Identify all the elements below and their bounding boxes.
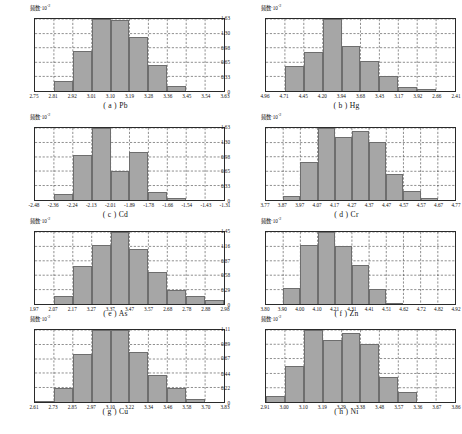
y-tick-label: 0.87 xyxy=(200,258,230,264)
bar xyxy=(398,392,417,402)
plot-area xyxy=(265,18,456,92)
y-tick-label: 0.29 xyxy=(200,287,230,293)
chart-panel-pb: 频数·10-200.280.550.831.101.382.752.812.92… xyxy=(0,0,231,109)
y-axis-ticks: 00.260.520.771.031.29 xyxy=(0,329,34,403)
y-tick-label: 0 xyxy=(200,198,230,204)
x-tick-label: 3.94 xyxy=(337,93,346,99)
bar-series xyxy=(35,330,224,402)
y-tick-label: 0.65 xyxy=(200,168,230,174)
bar xyxy=(73,354,92,402)
y-axis-unit-label: 频数·10-2 xyxy=(261,112,281,120)
plot-area xyxy=(265,329,456,403)
bar-series xyxy=(35,19,224,91)
bar xyxy=(54,296,73,304)
bar-series xyxy=(266,19,455,91)
x-tick-label: 3.45 xyxy=(182,93,191,99)
bar xyxy=(352,265,369,304)
bar xyxy=(167,290,186,304)
bar xyxy=(148,65,167,91)
bar xyxy=(318,128,335,200)
y-axis-ticks: 00.220.440.670.891.11 xyxy=(231,329,265,403)
axes-frame xyxy=(34,18,225,92)
bar xyxy=(111,330,130,402)
bar xyxy=(300,162,317,200)
x-tick-label: -2.13 xyxy=(86,202,97,208)
y-tick-label: 0.65 xyxy=(200,59,230,65)
axes-frame xyxy=(265,329,456,403)
x-tick-label: 3.43 xyxy=(375,93,384,99)
bar xyxy=(148,192,167,200)
x-tick-label: -1.66 xyxy=(162,202,173,208)
chart-panel-ni: 频数·10-200.220.440.670.891.112.913.003.10… xyxy=(231,311,462,424)
y-tick-label: 1.63 xyxy=(200,15,230,21)
axes-frame xyxy=(265,18,456,92)
x-tick-label: 3.19 xyxy=(125,93,134,99)
y-axis-unit-label: 频数·10-2 xyxy=(30,314,50,322)
bar xyxy=(323,19,342,91)
bar xyxy=(92,19,111,91)
x-tick-label: 4.45 xyxy=(299,93,308,99)
bar-series xyxy=(35,232,224,304)
y-axis-ticks: 00.280.550.831.101.38 xyxy=(0,18,34,92)
bar xyxy=(266,396,285,402)
bar xyxy=(92,245,111,304)
histogram-figure: 频数·10-200.280.550.831.101.382.752.812.92… xyxy=(0,0,462,434)
x-tick-label: 3.92 xyxy=(413,93,422,99)
axes-frame xyxy=(265,231,456,305)
y-tick-label: 0.98 xyxy=(200,45,230,51)
x-tick-label: 4.96 xyxy=(260,93,269,99)
y-axis-unit-label: 频数·10-2 xyxy=(261,216,281,224)
y-tick-label: 0 xyxy=(200,89,230,95)
y-tick-label: 0.44 xyxy=(200,371,230,377)
bar xyxy=(342,46,361,91)
y-axis-unit-label: 频数·10-2 xyxy=(30,112,50,120)
x-tick-label: -2.24 xyxy=(67,202,78,208)
bar xyxy=(335,137,352,200)
x-tick-label: 2.75 xyxy=(29,93,38,99)
x-tick-label: 4.57 xyxy=(417,202,426,208)
plot-area xyxy=(265,127,456,201)
bar xyxy=(167,198,186,200)
x-tick-label: -2.36 xyxy=(48,202,59,208)
y-tick-label: 0.98 xyxy=(200,154,230,160)
bar xyxy=(360,344,379,402)
bar xyxy=(54,81,73,91)
bar xyxy=(92,330,111,402)
x-tick-label: 3.97 xyxy=(295,202,304,208)
x-tick-label: 4.27 xyxy=(347,202,356,208)
axes-frame xyxy=(34,127,225,201)
bar xyxy=(304,52,323,91)
bar xyxy=(111,232,130,304)
axes-frame xyxy=(34,329,225,403)
y-axis-ticks: 00.260.520.781.041.30 xyxy=(0,231,34,305)
chart-panel-as: 频数·10-200.260.520.781.041.301.972.072.17… xyxy=(0,213,231,311)
bar xyxy=(335,246,352,304)
y-axis-ticks: 00.290.580.871.161.45 xyxy=(231,231,265,305)
y-axis-ticks: 00.360.721.071.431.79 xyxy=(0,127,34,201)
x-tick-label: 4.47 xyxy=(382,202,391,208)
bar xyxy=(54,194,73,200)
x-tick-label: 3.10 xyxy=(106,93,115,99)
y-tick-label: 0.33 xyxy=(200,74,230,80)
x-tick-label: 4.71 xyxy=(280,93,289,99)
bar-series xyxy=(266,232,455,304)
axes-frame xyxy=(265,127,456,201)
x-tick-label: 2.81 xyxy=(49,93,58,99)
x-tick-label: 4.17 xyxy=(330,202,339,208)
bar xyxy=(167,388,186,403)
bar xyxy=(111,171,130,200)
y-axis-ticks: 00.330.650.981.301.63 xyxy=(231,18,265,92)
bar xyxy=(352,131,369,200)
x-tick-label: 3.68 xyxy=(356,93,365,99)
y-axis-ticks: 00.330.650.981.301.63 xyxy=(231,127,265,201)
plot-area xyxy=(34,127,225,201)
plot-area xyxy=(34,329,225,403)
panel-caption: ( h ) Ni xyxy=(231,407,462,416)
chart-panel-cu: 频数·10-200.260.520.771.031.292.612.732.85… xyxy=(0,311,231,424)
x-tick-label: 4.37 xyxy=(365,202,374,208)
x-tick-label: -1.89 xyxy=(124,202,135,208)
x-tick-label: -1.54 xyxy=(181,202,192,208)
bar xyxy=(73,155,92,200)
x-tick-label: 2.92 xyxy=(68,93,77,99)
panel-caption: ( g ) Cu xyxy=(0,407,231,416)
